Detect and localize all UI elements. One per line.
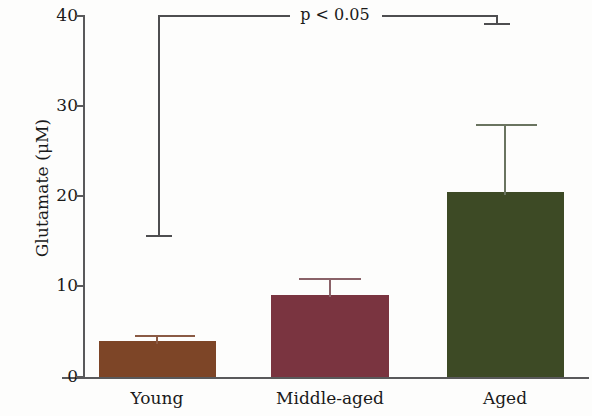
bar-young: [99, 341, 216, 377]
x-category-label-middle-aged: Middle-aged: [262, 388, 398, 408]
errorbar-stem-aged: [504, 125, 506, 195]
errorbar-cap-aged: [476, 124, 537, 126]
errorbar-cap-young: [135, 335, 195, 337]
errorbar-stem-middle-aged: [329, 279, 331, 297]
bar-middle-aged: [271, 295, 389, 377]
significance-label: p < 0.05: [292, 5, 378, 24]
errorbar-stem-young: [156, 336, 158, 344]
significance-bracket-foot-right: [484, 23, 510, 25]
significance-bracket-drop-left: [158, 15, 160, 236]
significance-bracket-foot-left: [146, 235, 172, 237]
plot-area: [0, 0, 592, 416]
x-category-label-young: Young: [97, 388, 217, 408]
bar-chart-figure: Glutamate (μM) 40 30 20 10 0 p < 0.05: [0, 0, 592, 416]
bar-aged: [447, 192, 564, 377]
significance-bracket-line-left: [158, 15, 290, 17]
x-category-label-aged: Aged: [446, 388, 564, 408]
errorbar-cap-middle-aged: [299, 278, 361, 280]
significance-bracket-line-right: [382, 15, 497, 17]
